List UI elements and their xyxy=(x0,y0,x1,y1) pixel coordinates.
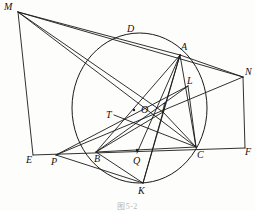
segment-M-E xyxy=(18,12,33,155)
point-label-N: N xyxy=(245,67,252,77)
point-label-M: M xyxy=(4,2,12,12)
geometry-figure: MDANLTOIEPBQCFK 图5-2 xyxy=(0,0,255,211)
figure-caption: 图5-2 xyxy=(0,200,255,211)
segment-L-C xyxy=(188,86,196,147)
point-label-T: T xyxy=(106,110,112,120)
point-label-K: K xyxy=(138,186,145,196)
point-label-I: I xyxy=(162,102,165,112)
segment-P-L xyxy=(56,86,188,155)
segment-M-I xyxy=(18,12,163,112)
segment-N-F xyxy=(243,77,245,148)
point-label-L: L xyxy=(187,76,193,86)
point-label-F: F xyxy=(245,147,251,157)
point-label-A: A xyxy=(181,42,187,52)
circle-center-dot xyxy=(133,109,135,111)
point-label-Q: Q xyxy=(133,156,140,166)
segment-P-N xyxy=(56,77,243,155)
segment-A-I xyxy=(163,55,180,112)
segment-A-B xyxy=(96,55,180,152)
point-label-C: C xyxy=(197,150,204,160)
point-label-D: D xyxy=(127,24,134,34)
point-label-O: O xyxy=(141,105,148,115)
point-label-B: B xyxy=(94,154,100,164)
point-label-E: E xyxy=(26,155,32,165)
midpoint-dot-Q xyxy=(136,149,138,151)
segment-M-N xyxy=(18,12,243,77)
point-label-P: P xyxy=(51,157,57,167)
